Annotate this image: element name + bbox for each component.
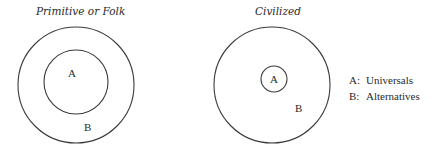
legend-text-alternatives: Alternatives bbox=[366, 90, 420, 102]
culture-diagram: Primitive or Folk A B Civilized A B A: U… bbox=[0, 0, 441, 150]
legend-key-a: A: bbox=[349, 74, 360, 86]
civilized-diagram: Civilized A B bbox=[214, 5, 330, 143]
primitive-label-a: A bbox=[68, 67, 76, 79]
civilized-label-b: B bbox=[295, 102, 302, 114]
civilized-label-a: A bbox=[270, 73, 278, 85]
primitive-outer-circle bbox=[18, 27, 134, 143]
legend: A: Universals B: Alternatives bbox=[349, 74, 420, 102]
primitive-folk-title: Primitive or Folk bbox=[35, 5, 125, 17]
legend-key-b: B: bbox=[349, 90, 359, 102]
primitive-label-b: B bbox=[84, 121, 91, 133]
civilized-outer-circle bbox=[214, 27, 330, 143]
legend-text-universals: Universals bbox=[366, 74, 413, 86]
primitive-folk-diagram: Primitive or Folk A B bbox=[18, 5, 134, 143]
primitive-inner-circle bbox=[44, 50, 108, 114]
civilized-title: Civilized bbox=[255, 5, 301, 17]
